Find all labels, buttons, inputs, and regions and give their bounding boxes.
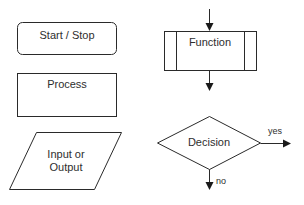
process-label: Process (47, 78, 87, 90)
arrow-down-icon (206, 23, 214, 31)
start-stop-node: Start / Stop (18, 23, 117, 55)
start-stop-label: Start / Stop (39, 29, 94, 41)
decision-yes-label: yes (268, 126, 283, 136)
decision-label: Decision (188, 136, 230, 148)
input-output-label-line2: Output (49, 161, 82, 173)
input-output-node: Input or Output (10, 133, 122, 190)
function-label: Function (189, 36, 231, 48)
decision-no-label: no (216, 176, 226, 186)
input-output-label-line1: Input or (47, 148, 85, 160)
function-node: Function (165, 9, 257, 91)
arrow-right-icon (283, 140, 291, 148)
arrow-down-icon (206, 83, 214, 91)
flowchart-diagram: Start / Stop Process Input or Output Fun… (0, 0, 304, 205)
arrow-down-icon (206, 182, 214, 190)
decision-node: Decision yes no (158, 117, 292, 191)
process-node: Process (18, 74, 117, 117)
